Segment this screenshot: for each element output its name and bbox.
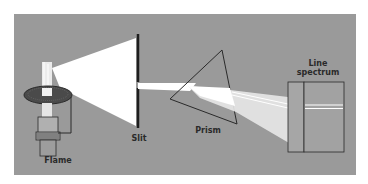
light-cone [52,38,136,126]
dispersed-light-bright [188,86,235,106]
screen-side [288,82,304,152]
light-beam [138,83,196,91]
line-spectrum-label-line2: spectrum [292,68,344,77]
flame-label: Flame [38,156,78,165]
line-spectrum-label: Line spectrum [292,59,344,77]
prism-label: Prism [190,126,226,135]
line-spectrum-label-line1: Line [292,59,344,68]
slit-label: Slit [124,134,154,143]
screen-face [304,82,344,152]
